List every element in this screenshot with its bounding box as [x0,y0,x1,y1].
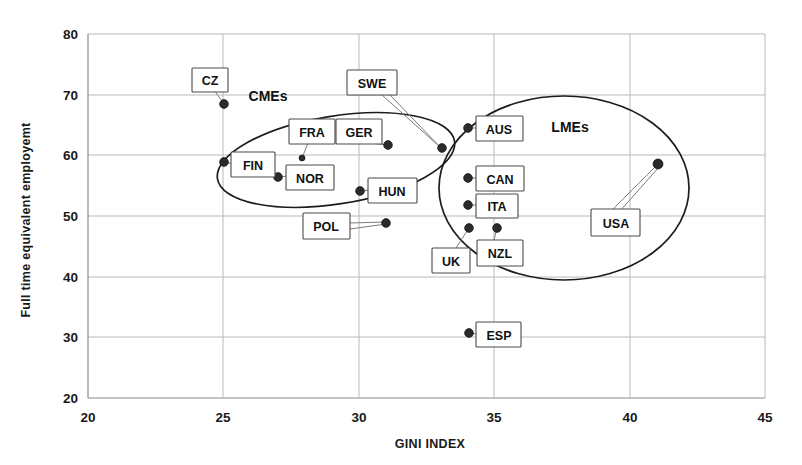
x-tick-35: 35 [486,410,502,425]
cluster-annotation-cmes: CMEs [249,88,288,104]
scatter-chart: 80 70 60 50 40 30 20 20 25 30 35 40 45 G… [0,0,802,465]
cluster-annotation-lmes: LMEs [551,119,589,135]
point-label-ger[interactable]: GER [336,119,382,144]
point-label-fin-text: FIN [243,159,263,173]
point-label-hun[interactable]: HUN [368,178,417,203]
y-tick-labels: 80 70 60 50 40 30 20 [63,27,78,406]
data-point-cz[interactable] [220,100,229,109]
data-point-esp[interactable] [465,329,474,338]
y-tick-20: 20 [63,391,78,406]
data-point-pol[interactable] [382,219,391,228]
y-tick-70: 70 [63,88,78,103]
y-tick-50: 50 [63,209,78,224]
point-label-usa[interactable]: USA [591,209,640,236]
point-label-hun-text: HUN [378,185,405,199]
point-label-uk-text: UK [442,255,460,269]
point-label-usa-text: USA [603,217,629,231]
point-label-can-text: CAN [486,173,513,187]
leader-pol-a [350,222,386,223]
data-point-ita[interactable] [464,201,473,210]
point-label-aus[interactable]: AUS [476,116,523,141]
data-point-nzl[interactable] [493,224,502,233]
point-label-nor[interactable]: NOR [286,165,334,190]
y-tick-60: 60 [63,148,78,163]
point-label-nor-text: NOR [296,172,324,186]
point-label-uk[interactable]: UK [432,248,470,273]
data-point-ger[interactable] [384,141,393,150]
point-label-callouts: CZ FIN NOR FRA GER SWE [192,68,640,347]
data-point-swe[interactable] [438,144,447,153]
x-tick-20: 20 [80,410,95,425]
point-label-ita[interactable]: ITA [476,194,518,218]
point-label-swe[interactable]: SWE [347,70,397,95]
point-label-nzl-text: NZL [488,247,513,261]
x-tick-25: 25 [215,410,231,425]
y-tick-40: 40 [63,270,78,285]
data-point-uk[interactable] [465,224,474,233]
point-label-pol-text: POL [313,220,339,234]
x-tick-40: 40 [622,410,637,425]
point-label-nzl[interactable]: NZL [477,240,523,266]
point-label-esp[interactable]: ESP [476,322,521,347]
y-tick-80: 80 [63,27,78,42]
point-label-ita-text: ITA [487,200,506,214]
x-tick-labels: 20 25 30 35 40 45 [80,410,773,425]
point-label-fra[interactable]: FRA [289,119,335,144]
data-point-fra[interactable] [299,155,305,161]
data-point-aus[interactable] [464,124,473,133]
horizontal-gridlines [88,34,765,398]
point-label-ger-text: GER [345,126,372,140]
data-point-usa[interactable] [653,159,663,169]
point-label-cz[interactable]: CZ [192,68,228,92]
y-axis-title: Full time equivalent employemt [19,122,33,318]
plot-svg: 80 70 60 50 40 30 20 20 25 30 35 40 45 G… [0,0,802,465]
x-tick-45: 45 [757,410,773,425]
point-label-pol[interactable]: POL [303,213,350,239]
data-point-can[interactable] [464,174,473,183]
data-point-hun[interactable] [356,187,365,196]
y-tick-30: 30 [63,330,78,345]
point-label-fin[interactable]: FIN [231,152,275,177]
point-label-esp-text: ESP [486,329,511,343]
point-label-swe-text: SWE [358,77,386,91]
data-point-fin[interactable] [220,158,229,167]
leader-pol-b [350,224,386,229]
point-label-can[interactable]: CAN [476,166,524,191]
point-label-cz-text: CZ [202,74,219,88]
x-tick-30: 30 [351,410,366,425]
point-label-fra-text: FRA [299,126,325,140]
x-axis-title: GINI INDEX [395,437,466,451]
point-label-aus-text: AUS [486,123,512,137]
